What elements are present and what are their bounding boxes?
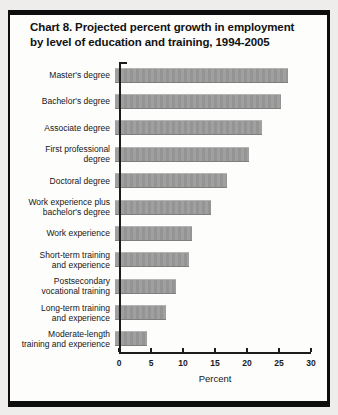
x-tick-label: 15 [210, 358, 219, 368]
chart-title-line2: by level of education and training, 1994… [30, 36, 270, 48]
category-label: First professional degree [18, 144, 115, 164]
x-tick-label: 10 [178, 358, 187, 368]
bar [115, 147, 249, 162]
bar [115, 94, 281, 109]
bar [115, 252, 189, 267]
bar-row: First professional degree [18, 141, 327, 167]
chart-title-line1: Chart 8. Projected percent growth in emp… [30, 21, 294, 33]
x-tick-label: 30 [306, 358, 315, 368]
x-tick-label: 20 [242, 358, 251, 368]
bar [115, 120, 262, 135]
x-tick-label: 5 [149, 358, 154, 368]
page: Chart 8. Projected percent growth in emp… [0, 0, 338, 415]
bar-rows: Master's degree Bachelor's degree Associ… [18, 62, 327, 352]
x-tick-label: 0 [117, 358, 122, 368]
bar-track [115, 115, 307, 141]
category-label: Doctoral degree [18, 176, 115, 186]
bar-row: Associate degree [18, 115, 327, 141]
bar-track [115, 62, 307, 88]
bar-row: Work experience plus bachelor's degree [18, 194, 327, 220]
category-label: Master's degree [18, 70, 115, 80]
bar-track [115, 299, 307, 325]
chart-frame: Chart 8. Projected percent growth in emp… [8, 10, 330, 407]
bar-track [115, 247, 307, 273]
bar-track [115, 141, 307, 167]
x-axis-tick [182, 348, 184, 352]
bar [115, 226, 192, 241]
x-axis-tick [214, 348, 216, 352]
bar-row: Bachelor's degree [18, 88, 327, 114]
bar-chart: Master's degree Bachelor's degree Associ… [18, 62, 327, 384]
bar-track [115, 194, 307, 220]
bar-row: Work experience [18, 220, 327, 246]
bar [115, 173, 227, 188]
bar [115, 68, 288, 83]
bar-row: Moderate-length training and experience [18, 326, 327, 352]
bar-row: Master's degree [18, 62, 327, 88]
x-tick-label: 25 [274, 358, 283, 368]
bar-row: Postsecondary vocational training [18, 273, 327, 299]
bar-row: Doctoral degree [18, 167, 327, 193]
chart-title: Chart 8. Projected percent growth in emp… [30, 20, 317, 50]
bar-track [115, 88, 307, 114]
x-axis-tick [150, 348, 152, 352]
x-axis-tick [310, 348, 312, 352]
bar-track [115, 273, 307, 299]
category-label: Bachelor's degree [18, 96, 115, 106]
bar-track [115, 167, 307, 193]
x-axis-title: Percent [119, 373, 311, 384]
x-axis-tick-labels: 0 5 10 15 20 25 30 [119, 354, 311, 368]
category-label: Work experience plus bachelor's degree [18, 197, 115, 217]
category-label: Work experience [18, 228, 115, 238]
bar [115, 279, 176, 294]
bar [115, 305, 166, 320]
bar-track [115, 220, 307, 246]
bar-row: Short-term training and experience [18, 247, 327, 273]
bar [115, 200, 211, 215]
x-axis-tick [278, 348, 280, 352]
bar-row: Long-term training and experience [18, 299, 327, 325]
category-label: Short-term training and experience [18, 250, 115, 270]
category-label: Associate degree [18, 123, 115, 133]
x-axis-tick [246, 348, 248, 352]
y-axis-line [119, 62, 121, 352]
category-label: Long-term training and experience [18, 303, 115, 323]
category-label: Moderate-length training and experience [18, 329, 115, 349]
category-label: Postsecondary vocational training [18, 276, 115, 296]
